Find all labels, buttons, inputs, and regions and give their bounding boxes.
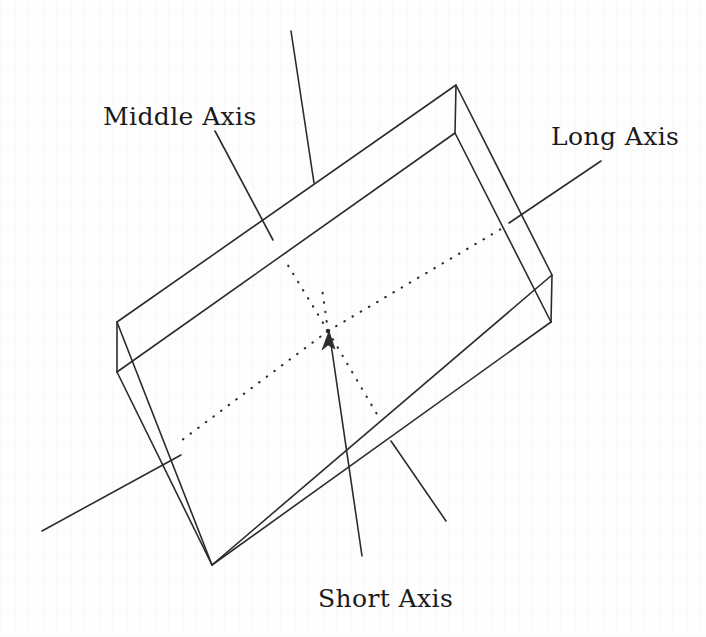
prism-edge-corner-right <box>551 275 552 322</box>
prism-outline <box>117 85 552 565</box>
long-axis-leader-line <box>509 161 601 223</box>
dotted-long-axis-right <box>328 229 501 331</box>
figure-root: Middle Axis Long Axis Short Axis <box>0 0 706 637</box>
label-middle-axis: Middle Axis <box>103 104 257 129</box>
label-long-axis: Long Axis <box>551 124 679 149</box>
prism-edge-side-right <box>212 322 551 565</box>
dotted-long-axis-left <box>178 331 328 443</box>
dotted-middle-axis-up <box>286 262 328 331</box>
short-axis-arrow-shaft <box>330 337 362 556</box>
prism-edge-top-near <box>117 133 551 372</box>
prism-edge-side-left <box>117 372 212 565</box>
unlabeled-top-leader-line <box>291 31 314 183</box>
prism-edge-corner-top <box>455 85 456 133</box>
unlabeled-lower-left-leader-line <box>42 455 181 531</box>
axes-diagram-svg <box>0 0 706 637</box>
internal-axes-dotted <box>178 229 501 443</box>
middle-axis-leader-line <box>215 131 273 240</box>
unlabeled-lower-right-leader-line <box>391 441 446 521</box>
dotted-short-axis-up <box>322 288 328 331</box>
label-short-axis: Short Axis <box>318 586 453 611</box>
